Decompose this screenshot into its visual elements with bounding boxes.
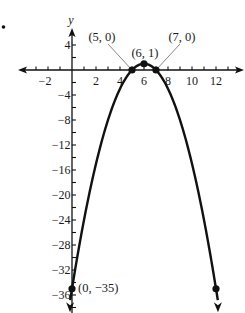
y-tick-label: −16	[52, 163, 71, 177]
point-label: (5, 0)	[88, 30, 115, 44]
x-tick-label: 2	[93, 74, 99, 88]
y-tick-label: −32	[52, 263, 71, 277]
y-tick-label: 4	[65, 38, 71, 52]
y-axis-label: y	[67, 13, 74, 27]
leader-line-7-0	[156, 44, 180, 70]
data-point	[68, 285, 75, 292]
problem-bullet	[2, 25, 6, 29]
y-tick-label: −24	[52, 213, 71, 227]
labeled-points	[68, 60, 219, 292]
curve-end-arrows	[66, 302, 222, 312]
point-label: (6, 1)	[131, 46, 158, 60]
y-tick-label: −4	[58, 88, 71, 102]
y-tick-label: −28	[52, 238, 71, 252]
y-tick-label: −12	[52, 138, 71, 152]
x-tick-label: 10	[186, 74, 198, 88]
parabola-curve	[70, 64, 218, 300]
leader-line-5-0	[108, 44, 132, 70]
x-tick-label: 6	[141, 74, 147, 88]
data-point	[212, 285, 219, 292]
y-tick-label: −20	[52, 188, 71, 202]
parabola-graph: −2246810124−4−8−12−16−20−24−28−32−36 y (…	[0, 0, 245, 313]
point-label: (0, −35)	[78, 281, 118, 295]
x-tick-label: 12	[210, 74, 222, 88]
data-point	[128, 66, 135, 73]
curve-right-arrow-icon	[214, 302, 222, 312]
data-point	[152, 66, 159, 73]
y-tick-label: −36	[52, 288, 71, 302]
x-tick-label: −2	[39, 74, 52, 88]
y-tick-label: −8	[58, 113, 71, 127]
point-label: (7, 0)	[168, 30, 195, 44]
data-point	[140, 60, 147, 67]
